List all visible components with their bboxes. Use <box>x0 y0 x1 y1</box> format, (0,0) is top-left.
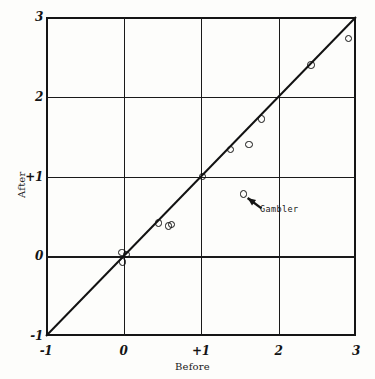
y-tick-label-plus-1: +1 <box>25 170 43 184</box>
x-tick-label-3: 3 <box>352 344 360 358</box>
y-tick-label-minus-1: -1 <box>30 329 43 343</box>
x-tick-label-0: 0 <box>119 344 127 358</box>
gambler-annotation-label: Gambler <box>260 204 299 214</box>
y-tick-label-0: 0 <box>35 249 43 263</box>
x-tick-label-plus-1: +1 <box>192 344 210 358</box>
scatter-plot-figure: After 3 2 +1 0 -1 -1 0 +1 2 3 Before <box>0 0 375 379</box>
x-axis-title: Before <box>175 361 210 372</box>
gambler-annotation-arrow <box>46 17 356 336</box>
x-tick-label-2: 2 <box>274 344 282 358</box>
y-tick-label-3: 3 <box>35 10 43 24</box>
y-tick-label-2: 2 <box>35 90 43 104</box>
x-tick-label-minus-1: -1 <box>40 344 53 358</box>
plot-area <box>46 17 356 336</box>
